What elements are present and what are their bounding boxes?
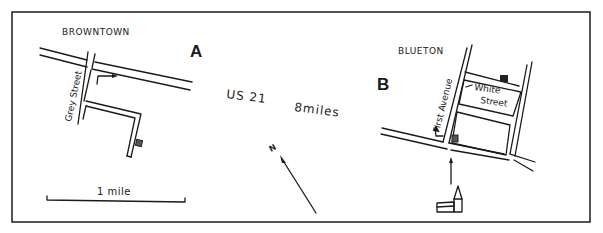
main-road-a — [40, 48, 192, 90]
north-arrow-icon — [280, 155, 316, 213]
white-street-label-2: Street — [480, 95, 509, 109]
destination-building-a-icon — [135, 139, 142, 146]
corner-building-b-icon — [452, 135, 458, 142]
map-a: BROWNTOWN A Grey Street — [40, 27, 202, 202]
grey-street — [78, 52, 95, 124]
white-street-leader — [466, 85, 472, 87]
town-label-blueton: BLUETON — [398, 46, 444, 56]
white-street-label-1: White — [474, 82, 502, 96]
east-street-b — [510, 62, 532, 156]
side-road-a — [86, 101, 141, 157]
route-map: BROWNTOWN A Grey Street — [0, 0, 603, 233]
road-label-us21: US 21 — [226, 87, 268, 106]
main-road-b — [381, 128, 535, 171]
town-label-browntown: BROWNTOWN — [62, 27, 130, 37]
north-label: N — [268, 143, 278, 154]
turn-arrow-a-icon — [97, 74, 118, 84]
destination-building-b-icon — [500, 75, 508, 82]
church-icon — [437, 186, 462, 212]
grey-street-label: Grey Street — [63, 69, 84, 122]
scale-label: 1 mile — [97, 186, 131, 197]
map-b-letter: B — [377, 75, 389, 94]
connector: US 21 8miles N — [226, 87, 341, 213]
first-avenue-label: First Avenue — [431, 77, 454, 133]
approach-arrow-icon — [449, 157, 453, 184]
distance-label: 8miles — [294, 100, 341, 119]
map-a-letter: A — [190, 42, 202, 61]
map-b: BLUETON B First Avenue — [377, 45, 535, 212]
